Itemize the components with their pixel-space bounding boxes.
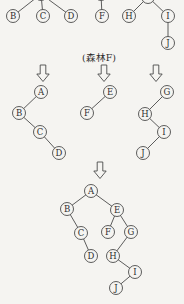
forest-tree-2-node-label-F: F bbox=[99, 11, 105, 21]
merged-binary-tree-node-label-F: F bbox=[105, 227, 111, 237]
diagram-svg: (森林F) BCDFHIJABCDEFGHIJABECFGDHIJ bbox=[0, 0, 184, 304]
binary-subtree-G-node-label-H: H bbox=[141, 109, 148, 119]
merged-binary-tree-node-label-G: G bbox=[128, 227, 135, 237]
forest-tree-3-node-label-J: J bbox=[165, 38, 170, 48]
forest-tree-1-node-label-D: D bbox=[68, 11, 75, 21]
forest-tree-3-node-label-I: I bbox=[166, 11, 169, 21]
forest-tree-1-node-root bbox=[35, 0, 48, 1]
forest-tree-3-node-label-H: H bbox=[125, 11, 132, 21]
binary-subtree-E-node-label-E: E bbox=[107, 87, 113, 97]
binary-subtree-G-node-label-G: G bbox=[164, 87, 171, 97]
merged-binary-tree-node-label-I: I bbox=[133, 267, 136, 277]
merged-binary-tree-node-label-D: D bbox=[88, 251, 95, 261]
down-arrow-1 bbox=[37, 65, 49, 82]
down-arrow-3 bbox=[150, 65, 162, 82]
scan-page: (森林F) BCDFHIJABCDEFGHIJABECFGDHIJ bbox=[0, 0, 184, 304]
binary-subtree-G-node-label-I: I bbox=[162, 127, 165, 137]
binary-subtree-A-node-label-B: B bbox=[16, 108, 22, 118]
merged-binary-tree-node-label-J: J bbox=[113, 283, 118, 293]
merged-binary-tree-node-label-C: C bbox=[78, 228, 85, 238]
binary-subtree-A-node-label-D: D bbox=[56, 148, 63, 158]
binary-subtree-A-node-label-A: A bbox=[37, 87, 45, 97]
merged-binary-tree-node-label-E: E bbox=[114, 205, 120, 215]
forest-tree-1-node-label-B: B bbox=[10, 11, 16, 21]
merged-binary-tree-node-label-A: A bbox=[87, 186, 95, 196]
forest-tree-3-node-root bbox=[142, 0, 155, 4]
down-arrow-2 bbox=[98, 65, 110, 82]
binary-subtree-G-node-label-J: J bbox=[140, 148, 145, 158]
merged-binary-tree-node-label-B: B bbox=[64, 204, 70, 214]
merged-binary-tree-node-label-H: H bbox=[109, 251, 116, 261]
forest-tree-1-node-label-C: C bbox=[40, 11, 47, 21]
forest-caption: (森林F) bbox=[82, 52, 116, 63]
binary-subtree-E-node-label-F: F bbox=[84, 108, 90, 118]
forest-tree-2-node-root bbox=[95, 0, 108, 1]
down-arrow-4 bbox=[94, 162, 106, 179]
binary-subtree-A-node-label-C: C bbox=[37, 127, 44, 137]
